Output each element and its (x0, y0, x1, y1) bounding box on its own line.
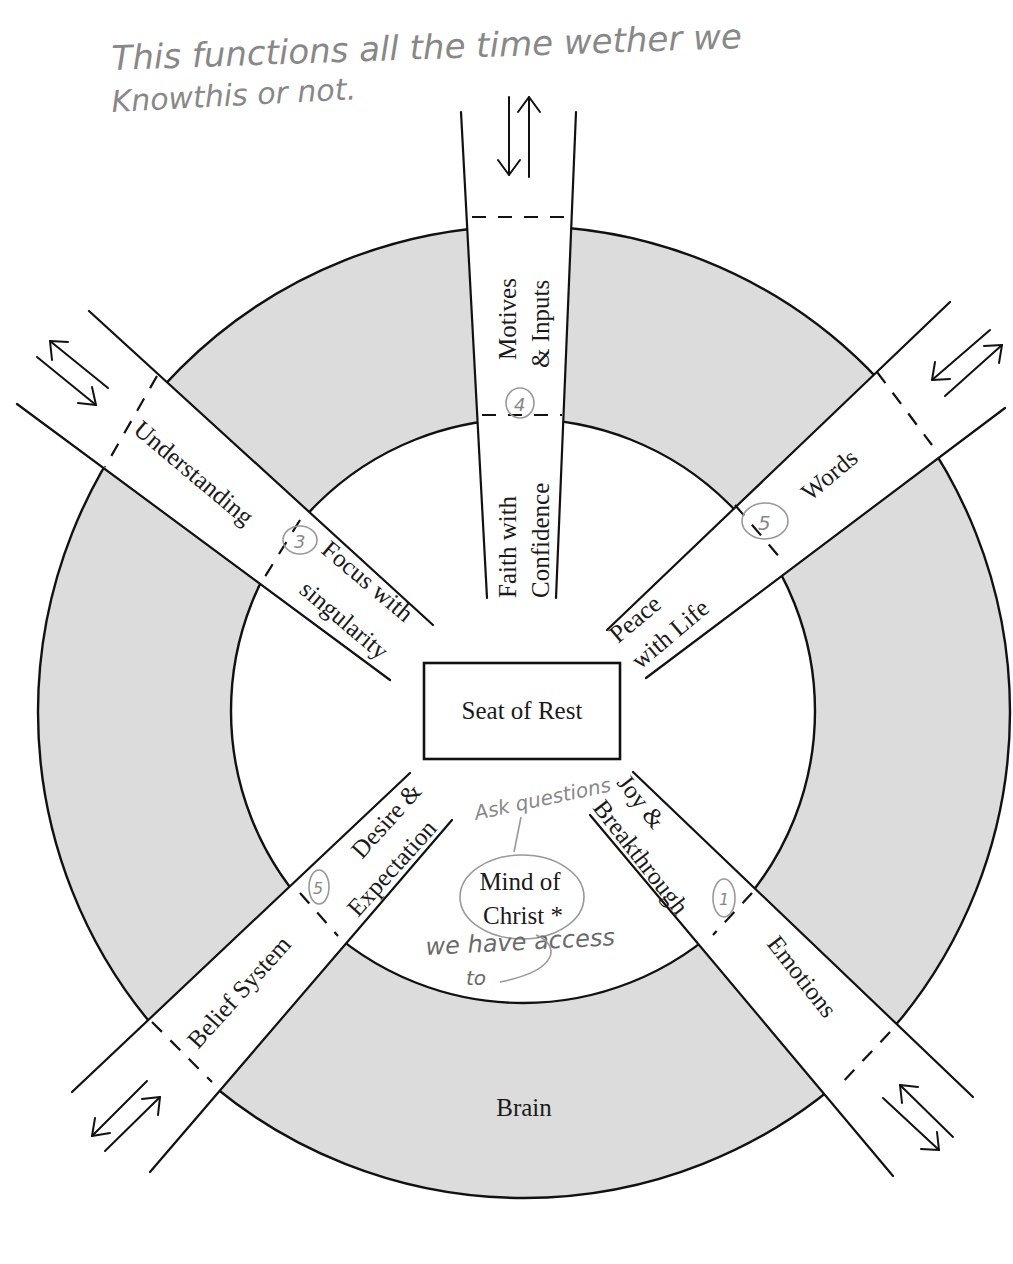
number-3: 3 (294, 531, 305, 552)
number-1: 1 (719, 890, 729, 909)
number-5-belief: 5 (313, 879, 323, 898)
inputs-label: & Inputs (527, 280, 554, 368)
top-note-line1: This functions all the time wether we (111, 16, 743, 78)
to-note: to (466, 966, 486, 990)
mind-line1: Mind of (479, 868, 561, 895)
confidence-label: Confidence (527, 483, 554, 598)
faith-label: Faith with (494, 495, 521, 598)
number-4: 4 (514, 394, 525, 415)
brain-label: Brain (496, 1094, 552, 1121)
mind-line2: Christ * (483, 902, 563, 929)
number-5-words: 5 (758, 511, 771, 535)
motives-label: Motives (494, 278, 521, 360)
seat-of-rest-label: Seat of Rest (462, 697, 583, 724)
heart-diagram: Seat of Rest Brain Motives & Inputs Fait… (0, 0, 1013, 1264)
seat-of-rest-box: Seat of Rest (424, 663, 620, 759)
top-note-line2: Knowthis or not. (111, 71, 357, 119)
